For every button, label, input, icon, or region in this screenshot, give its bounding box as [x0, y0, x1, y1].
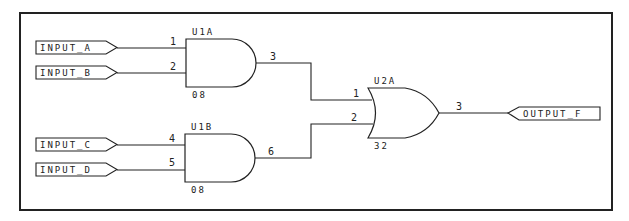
svg-text:2: 2: [170, 61, 176, 72]
svg-text:INPUT_C: INPUT_C: [40, 140, 92, 150]
svg-text:U1B: U1B: [191, 122, 213, 132]
svg-text:3: 3: [270, 51, 276, 62]
svg-text:INPUT_D: INPUT_D: [40, 165, 92, 175]
svg-text:OUTPUT_F: OUTPUT_F: [523, 109, 582, 119]
input-port-b[interactable]: INPUT_B: [36, 66, 117, 79]
input-port-d[interactable]: INPUT_D: [36, 163, 117, 176]
output-port-f[interactable]: OUTPUT_F: [508, 107, 600, 120]
svg-text:08: 08: [191, 185, 206, 195]
svg-text:U2A: U2A: [374, 76, 396, 86]
svg-text:4: 4: [169, 133, 175, 144]
svg-text:U1A: U1A: [192, 27, 214, 37]
svg-text:5: 5: [169, 157, 175, 168]
svg-text:1: 1: [170, 36, 176, 47]
svg-text:32: 32: [374, 141, 389, 151]
input-port-c[interactable]: INPUT_C: [36, 138, 117, 151]
svg-text:6: 6: [268, 146, 274, 157]
input-port-a[interactable]: INPUT_A: [36, 41, 117, 54]
schematic-canvas: INPUT_A INPUT_B INPUT_C INPUT_D U1A 08 1…: [0, 0, 629, 221]
svg-text:3: 3: [456, 101, 462, 112]
svg-text:2: 2: [351, 112, 357, 123]
svg-text:08: 08: [192, 90, 207, 100]
svg-text:INPUT_A: INPUT_A: [40, 43, 92, 53]
svg-text:INPUT_B: INPUT_B: [40, 68, 92, 78]
svg-text:1: 1: [353, 88, 359, 99]
